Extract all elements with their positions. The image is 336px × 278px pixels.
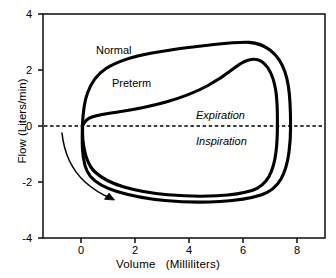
chart-plot-area [0,0,336,278]
flow-volume-loop-figure: 4 2 0 -2 -4 0 2 4 6 8 Volume (Milliliter… [0,0,336,278]
y-axis-title: Flow (Liters/min) [16,41,28,201]
y-tick-label-minus-4: -4 [6,233,32,244]
x-tick-label-8: 8 [284,245,310,256]
x-tick-label-2: 2 [122,245,148,256]
x-axis-title: Volume (Milliliters) [0,258,336,270]
x-tick-label-0: 0 [68,245,94,256]
x-tick-label-4: 4 [176,245,202,256]
phase-label-expiration: Expiration [196,110,245,121]
x-tick-label-6: 6 [230,245,256,256]
curve-label-normal: Normal [96,45,131,56]
phase-label-inspiration: Inspiration [196,136,247,147]
curve-label-preterm: Preterm [112,78,151,89]
y-tick-label-4: 4 [6,9,32,20]
